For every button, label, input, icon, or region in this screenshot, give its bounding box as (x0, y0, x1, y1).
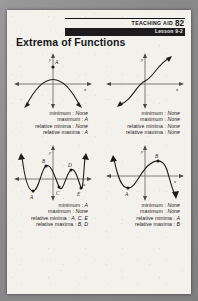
figure-1-caption: minimum : None maximum : A relative mini… (14, 110, 92, 135)
point-B-label: B (42, 158, 46, 164)
relative-maxima-value: None (167, 129, 180, 135)
point-B-dot (157, 160, 160, 163)
point-B-dot (45, 165, 48, 168)
maximum-label: maximum : (48, 208, 74, 214)
minimum-value: None (167, 202, 180, 208)
relative-maxima-line: relative maxima : B, D (14, 221, 88, 227)
page-header: TEACHING AID 82 Lesson 9-2 (65, 18, 185, 36)
curve-arrow-down-right (172, 191, 179, 199)
point-A-label: A (54, 59, 59, 65)
relative-maxima-line: relative maxima : B (106, 221, 180, 227)
y-axis-label: y (48, 150, 52, 155)
maximum-value: None (167, 116, 180, 122)
minimum-label: minimum : (59, 202, 83, 208)
minimum-value: None (167, 110, 180, 116)
figure-4-caption: minimum : None maximum : None relative m… (106, 202, 184, 227)
figure-1: y x A minimum : None (7, 51, 99, 135)
maximum-value: A (84, 116, 88, 122)
figure-2-caption: minimum : None maximum : None relative m… (106, 110, 184, 135)
figure-4-plot: y x A B (102, 143, 188, 201)
curve-arrow-end (166, 56, 172, 62)
x-axis-label: x (173, 179, 177, 184)
minimum-label: minimum : (142, 110, 166, 116)
maximum-label: maximum : (140, 116, 166, 122)
relative-minima-value: A (176, 215, 180, 221)
point-C-label: C (56, 190, 60, 196)
relative-maxima-label: relative maxima : (126, 129, 166, 135)
point-A-label: A (124, 191, 129, 197)
relative-minima-label: relative minima : (31, 215, 70, 221)
relative-maxima-value: A (84, 129, 88, 135)
relative-maxima-line: relative maxima : A (14, 129, 88, 135)
figure-1-plot: y x A (10, 51, 96, 109)
curve-arrow-start (117, 101, 123, 107)
point-D-dot (70, 169, 73, 172)
point-A-dot (51, 65, 54, 68)
figure-2-plot: y x (102, 51, 188, 109)
figure-grid: y x A minimum : None (7, 51, 191, 227)
relative-maxima-value: B (176, 221, 180, 227)
figure-3: y x A B C D (7, 143, 99, 227)
relative-maxima-label: relative maxima : (135, 221, 175, 227)
curve-arrow-right (76, 102, 82, 108)
relative-maxima-value: B, D (78, 221, 88, 227)
header-rule (65, 18, 185, 19)
worksheet-page: TEACHING AID 82 Lesson 9-2 Extrema of Fu… (7, 10, 191, 294)
lesson-band: Lesson 9-2 (65, 28, 185, 36)
figure-row-1: y x A minimum : None (7, 51, 191, 135)
x-axis-label: x (83, 87, 87, 92)
minimum-label: minimum : (50, 110, 74, 116)
x-axis-label: x (175, 87, 179, 92)
minimum-value: A (84, 202, 88, 208)
figure-2: y x minimum : None maximu (99, 51, 191, 135)
curve-arrow-up-left (110, 155, 117, 162)
minimum-label: minimum : (142, 202, 166, 208)
teaching-aid-line: TEACHING AID 82 (65, 20, 185, 27)
relative-minima-value: A, C, E (71, 215, 88, 221)
relative-maxima-line: relative maxima : None (106, 129, 180, 135)
minimum-value: None (75, 110, 88, 116)
maximum-label: maximum : (140, 208, 166, 214)
curve-arrow-left (18, 153, 25, 160)
relative-maxima-label: relative maxima : (36, 221, 76, 227)
point-C-dot (58, 186, 61, 189)
figure-row-2: y x A B C D (7, 143, 191, 227)
point-A-label: A (29, 194, 34, 200)
teaching-aid-label: TEACHING AID (132, 20, 173, 26)
point-B-label: B (155, 153, 159, 159)
relative-minima-label: relative minima : (35, 123, 74, 129)
curve-arrow-left (24, 102, 30, 108)
point-A-dot (127, 187, 130, 190)
point-E-label: E (76, 191, 81, 197)
figure-3-plot: y x A B C D (10, 143, 96, 201)
relative-minima-label: relative minima : (127, 123, 166, 129)
figure-4: y x A B minimum : (99, 143, 191, 227)
point-E-dot (80, 187, 83, 190)
maximum-value: None (167, 208, 180, 214)
relative-minima-label: relative minima : (136, 215, 175, 221)
relative-minima-value: None (167, 123, 180, 129)
relative-maxima-label: relative maxima : (43, 129, 83, 135)
curve-arrow-right (82, 153, 89, 160)
figure-3-caption: minimum : A maximum : None relative mini… (14, 202, 92, 227)
relative-minima-value: None (75, 123, 88, 129)
maximum-label: maximum : (57, 116, 83, 122)
page-title: Extrema of Functions (16, 36, 125, 48)
point-A-dot (32, 190, 35, 193)
point-D-label: D (67, 162, 72, 168)
maximum-value: None (75, 208, 88, 214)
teaching-aid-number: 82 (175, 19, 184, 28)
